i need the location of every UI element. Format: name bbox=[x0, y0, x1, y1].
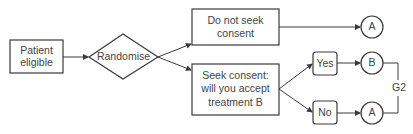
outcome-a-bottom-node: A bbox=[361, 102, 383, 124]
edge-seek-yes bbox=[279, 64, 312, 89]
flowchart: Patient eligible Randomise Do not seek c… bbox=[0, 0, 413, 134]
randomise-label: Randomise bbox=[97, 50, 150, 62]
edge-randomise-no-consent bbox=[158, 44, 191, 57]
g2-label: G2 bbox=[392, 81, 406, 93]
edge-randomise-seek-consent bbox=[158, 57, 191, 70]
no-consent-label-line2: consent bbox=[217, 27, 254, 39]
seek-consent-label-line2: will you accept bbox=[200, 82, 269, 94]
outcome-a-top-node: A bbox=[361, 16, 383, 38]
g2-group-bracket: G2 bbox=[383, 63, 406, 113]
edge-seek-no bbox=[279, 89, 312, 112]
seek-consent-node: Seek consent: will you accept treatment … bbox=[192, 64, 279, 115]
patient-eligible-node: Patient eligible bbox=[10, 40, 63, 73]
yes-node: Yes bbox=[313, 52, 337, 75]
no-node: No bbox=[313, 101, 337, 124]
outcome-a-bottom-label: A bbox=[368, 106, 375, 118]
seek-consent-label-line3: treatment B bbox=[208, 96, 262, 108]
no-label: No bbox=[318, 106, 332, 118]
outcome-a-top-label: A bbox=[368, 20, 375, 32]
yes-label: Yes bbox=[316, 57, 333, 69]
patient-eligible-label-line2: eligible bbox=[20, 56, 53, 68]
patient-eligible-label-line1: Patient bbox=[20, 44, 53, 56]
outcome-b-label: B bbox=[368, 56, 375, 68]
do-not-seek-consent-node: Do not seek consent bbox=[192, 9, 279, 45]
seek-consent-label-line1: Seek consent: bbox=[202, 69, 269, 81]
no-consent-label-line1: Do not seek bbox=[207, 14, 264, 26]
randomise-node: Randomise bbox=[89, 34, 158, 79]
outcome-b-node: B bbox=[361, 52, 383, 74]
